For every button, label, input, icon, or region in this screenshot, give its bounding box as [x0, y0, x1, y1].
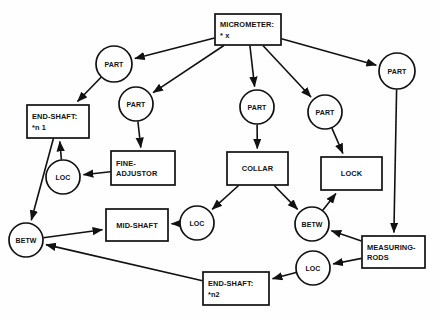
node-label: PART [388, 68, 408, 75]
node-label: PART [316, 109, 336, 116]
edge-measuring-rods-to-loc-3 [333, 258, 361, 264]
node-label: MICROMETER: [220, 20, 274, 29]
node-label: LOCK [341, 169, 363, 178]
node-label: BETW [15, 237, 36, 244]
edge-micrometer-to-part-4 [263, 46, 311, 98]
node-end-shaft-n2[interactable]: END-SHAFT:*n2 [203, 272, 269, 305]
edge-part-4-to-lock [332, 128, 343, 153]
node-betw-right[interactable]: BETW [295, 207, 329, 241]
node-label: END-SHAFT: [208, 279, 253, 288]
node-label: RODS [367, 253, 389, 262]
edge-part-5-to-measuring-rods [394, 90, 397, 233]
node-label: PART [248, 104, 268, 111]
node-part-3[interactable]: PART [240, 90, 274, 124]
node-lock[interactable]: LOCK [321, 157, 382, 190]
edge-part-1-to-end-shaft-n1 [78, 77, 102, 101]
edge-betw-right-to-lock [323, 194, 336, 211]
node-label: *n 1 [32, 123, 46, 132]
edge-end-shaft-n2-to-betw-left [46, 245, 203, 281]
edge-fine-adjustor-to-loc-1 [83, 172, 110, 175]
node-label: LOC [55, 174, 70, 181]
node-loc-2[interactable]: LOC [180, 206, 214, 240]
node-label: LOC [305, 265, 320, 272]
node-part-1[interactable]: PART [96, 46, 132, 82]
node-label: *n2 [208, 290, 220, 299]
edge-collar-to-loc-2 [212, 186, 238, 210]
edge-betw-left-to-mid-shaft [43, 230, 102, 238]
node-label: PART [105, 61, 125, 68]
node-label: ADJUSTOR [116, 169, 158, 178]
node-label: PART [127, 101, 147, 108]
node-label: MID-SHAFT [116, 221, 158, 230]
node-shape-box [215, 14, 281, 45]
node-layer: MICROMETER:* xPARTPARTPARTPARTPARTEND-SH… [9, 14, 425, 305]
edge-micrometer-to-part-2 [153, 46, 224, 93]
edge-loc-3-to-end-shaft-n2 [273, 273, 297, 279]
node-part-4[interactable]: PART [308, 95, 342, 129]
node-measuring-rods[interactable]: MEASURING-RODS [362, 236, 425, 268]
node-loc-1[interactable]: LOC [46, 160, 80, 194]
edge-micrometer-to-part-5 [282, 39, 377, 65]
node-label: END-SHAFT: [32, 112, 77, 121]
node-label: FINE- [116, 159, 136, 168]
edge-part-2-to-fine-adjustor [138, 121, 141, 147]
edge-loc-1-to-end-shaft-n1 [60, 142, 62, 160]
node-shape-box [27, 105, 89, 138]
node-label: * x [220, 31, 230, 40]
edge-measuring-rods-to-betw-right [331, 231, 361, 241]
node-micrometer[interactable]: MICROMETER:* x [215, 14, 281, 45]
edge-micrometer-to-part-3 [250, 46, 255, 87]
edge-collar-to-betw-right [274, 186, 297, 210]
node-mid-shaft[interactable]: MID-SHAFT [106, 209, 168, 241]
node-label: BETW [301, 221, 322, 228]
node-shape-box [362, 236, 425, 268]
node-label: COLLAR [242, 164, 274, 173]
node-end-shaft-n1[interactable]: END-SHAFT:*n 1 [27, 105, 89, 138]
node-label: MEASURING- [367, 243, 416, 252]
node-part-5[interactable]: PART [379, 53, 415, 89]
node-shape-box [203, 272, 269, 305]
diagram-canvas: MICROMETER:* xPARTPARTPARTPARTPARTEND-SH… [0, 0, 439, 319]
node-loc-3[interactable]: LOC [296, 251, 330, 285]
edge-micrometer-to-part-1 [135, 38, 215, 59]
node-shape-box [111, 151, 175, 185]
semantic-network-diagram: MICROMETER:* xPARTPARTPARTPARTPARTEND-SH… [0, 0, 439, 319]
node-betw-left[interactable]: BETW [9, 223, 43, 257]
node-fine-adjustor[interactable]: FINE-ADJUSTOR [111, 151, 175, 185]
node-collar[interactable]: COLLAR [227, 152, 288, 185]
node-part-2[interactable]: PART [119, 87, 153, 121]
node-label: LOC [189, 220, 204, 227]
